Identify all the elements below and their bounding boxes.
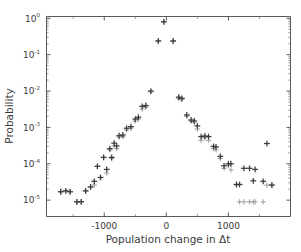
probability-distribution-chart: 10010-110-210-310-410-5 -100001000 Popul…	[0, 0, 301, 252]
x-ticklabel: 1000	[217, 221, 240, 231]
x-ticklabel: 0	[163, 221, 169, 231]
scatter-series-light	[58, 19, 274, 204]
y-ticklabel-exponent: 0	[37, 12, 41, 18]
data-point	[67, 189, 73, 195]
y-ticklabel-exponent: -1	[35, 49, 40, 55]
data-point	[252, 167, 258, 173]
data-point	[261, 199, 266, 204]
data-point	[98, 175, 104, 181]
y-ticklabel: 10-5	[23, 194, 40, 205]
y-ticklabel: 100	[25, 12, 40, 23]
y-ticklabel-exponent: -2	[35, 85, 40, 91]
y-ticklabel: 10-3	[23, 121, 40, 132]
y-ticklabel: 10-2	[23, 85, 40, 96]
x-axis-title: Population change in Δt	[106, 233, 231, 245]
data-point	[148, 88, 154, 94]
data-point	[264, 141, 270, 147]
data-point	[104, 167, 110, 173]
data-point	[260, 178, 266, 184]
data-point	[63, 188, 69, 194]
y-axis-title: Probability	[3, 88, 15, 144]
data-point	[170, 38, 176, 44]
data-point	[116, 133, 122, 139]
data-point	[228, 167, 233, 172]
data-point	[241, 199, 246, 204]
x-axis-ticklabels: -100001000	[91, 221, 240, 231]
x-axis-ticks	[73, 17, 259, 217]
data-point	[194, 123, 200, 129]
data-point	[155, 38, 161, 44]
data-point	[101, 154, 107, 160]
data-point	[264, 182, 269, 187]
data-point	[91, 178, 97, 184]
y-axis-ticklabels: 10010-110-210-310-410-5	[23, 12, 40, 205]
data-point	[139, 103, 145, 109]
data-point	[269, 182, 275, 188]
y-axis-ticks	[47, 18, 291, 200]
figure-container: 10010-110-210-310-410-5 -100001000 Popul…	[0, 0, 301, 252]
data-point	[58, 189, 64, 195]
y-ticklabel-exponent: -5	[35, 194, 41, 200]
y-ticklabel-exponent: -3	[35, 121, 41, 127]
data-point	[109, 154, 115, 160]
axes-frame	[47, 17, 291, 217]
data-point	[191, 118, 197, 124]
y-ticklabel: 10-4	[23, 158, 40, 169]
y-ticklabel: 10-1	[23, 49, 40, 60]
data-point	[107, 146, 113, 152]
y-ticklabel-exponent: -4	[35, 158, 41, 164]
data-point	[206, 134, 212, 140]
x-ticklabel: -1000	[91, 221, 117, 231]
scatter-series-dark	[58, 19, 275, 205]
data-point	[179, 95, 185, 101]
data-point	[241, 165, 247, 171]
data-point	[250, 178, 256, 184]
data-point	[78, 199, 84, 205]
data-point	[237, 182, 243, 188]
data-point	[95, 163, 101, 169]
data-point	[83, 188, 89, 194]
data-point	[247, 165, 253, 171]
